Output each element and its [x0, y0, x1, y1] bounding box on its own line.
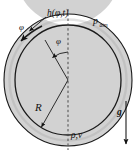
film-thickness-label: h(φ,t) — [47, 8, 68, 19]
annulus-diagram-svg: R φ h(φ,t) φ p atm ρ,ν g — [0, 0, 138, 154]
gravity-label: g — [116, 107, 122, 117]
pressure-subscript: atm — [100, 22, 108, 28]
pressure-label: p — [92, 15, 98, 26]
angle-label: φ — [56, 36, 61, 46]
angle-top-left-label: φ — [19, 22, 24, 32]
density-velocity-label: ρ,ν — [70, 130, 83, 140]
atmospheric-pressure-label-group: p atm — [92, 15, 108, 27]
radius-label: R — [34, 101, 42, 113]
figure-canvas: R φ h(φ,t) φ p atm ρ,ν g — [0, 0, 138, 154]
